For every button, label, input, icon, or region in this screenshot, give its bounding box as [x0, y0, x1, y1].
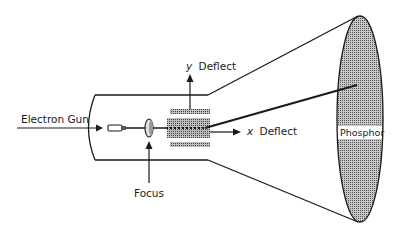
x-deflect-pointer: [210, 129, 241, 136]
electron-gun-label: Electron Gun: [21, 113, 89, 125]
phosphor-screen: [337, 16, 383, 222]
y-axis-letter: y: [185, 60, 193, 72]
focus-pointer: [146, 141, 153, 183]
x-deflect-text: Deflect: [260, 125, 298, 137]
x-axis-letter: x: [246, 125, 254, 137]
y-plate-bottom: [170, 142, 210, 147]
focus-label: Focus: [134, 187, 164, 199]
electron-beam-screen: [205, 85, 357, 128]
tube-flare-top: [208, 16, 358, 95]
phosphor-label: Phosphor: [340, 127, 384, 138]
y-deflect-label: y Deflect: [185, 60, 236, 72]
electron-gun-pointer: [17, 125, 103, 132]
tube-outline: [89, 16, 359, 222]
y-plate-top: [170, 109, 210, 114]
arrow-right-icon: [233, 129, 241, 136]
y-deflect-text: Deflect: [199, 60, 237, 72]
crt-diagram: Electron Gun Focus y Deflect x Deflect P…: [0, 0, 399, 237]
focus-lens: [145, 119, 153, 137]
arrow-up-icon: [187, 74, 194, 82]
arrow-up-icon: [146, 141, 153, 149]
tube-flare-bottom: [208, 160, 358, 222]
electron-gun: [108, 125, 126, 131]
x-deflect-label: x Deflect: [246, 125, 297, 137]
arrow-right-icon: [96, 125, 103, 132]
y-deflect-pointer: [187, 74, 194, 109]
